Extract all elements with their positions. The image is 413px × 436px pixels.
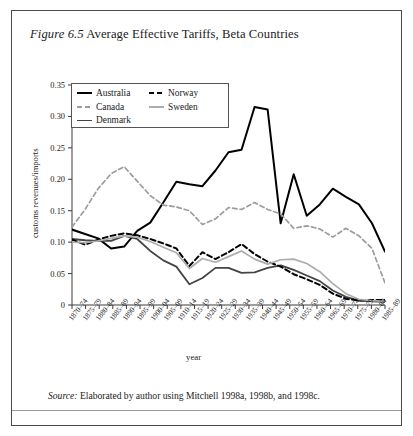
series-line-australia [72, 107, 385, 252]
source-prefix: Source: [48, 390, 77, 401]
legend-item-sweden: Sweden [149, 101, 227, 114]
y-axis-tick-label: 0.05 [50, 270, 65, 279]
legend-label: Australia [96, 87, 130, 100]
legend-label: Denmark [96, 114, 131, 127]
series-line-canada [72, 167, 385, 283]
legend-item-denmark: Denmark [77, 114, 149, 127]
y-axis-tick-label: 0.10 [50, 238, 65, 247]
figure-source: Source: Elaborated by author using Mitch… [48, 390, 388, 401]
legend-item-norway: Norway [149, 87, 227, 100]
legend-swatch-icon [77, 120, 92, 122]
y-axis-tick-label: 0 [61, 301, 65, 310]
figure-page: Figure 6.5 Average Effective Tariffs, Be… [0, 0, 413, 436]
series-line-norway [72, 233, 385, 300]
y-axis-tick-label: 0.35 [50, 81, 65, 90]
y-axis-tick-label: 0.15 [50, 207, 65, 216]
legend-label: Sweden [168, 101, 198, 114]
bottom-rule [12, 410, 401, 411]
legend-item-australia: Australia [77, 87, 149, 100]
legend-item-canada: Canada [77, 101, 149, 114]
y-axis-tick-label: 0.30 [50, 112, 65, 121]
legend-label: Norway [168, 87, 198, 100]
legend-swatch-icon [149, 92, 164, 94]
y-axis-tick-label: 0.25 [50, 144, 65, 153]
source-text: Elaborated by author using Mitchell 1998… [80, 390, 320, 401]
legend-swatch-icon [149, 106, 164, 108]
chart-legend: AustraliaNorwayCanadaSwedenDenmark [71, 83, 229, 128]
legend-swatch-icon [77, 92, 92, 94]
chart-plot: 00.050.100.150.200.250.300.35 [0, 0, 413, 436]
legend-label: Canada [96, 101, 124, 114]
y-axis-tick-label: 0.20 [50, 175, 65, 184]
legend-swatch-icon [77, 106, 92, 108]
series-line-denmark [72, 236, 385, 302]
